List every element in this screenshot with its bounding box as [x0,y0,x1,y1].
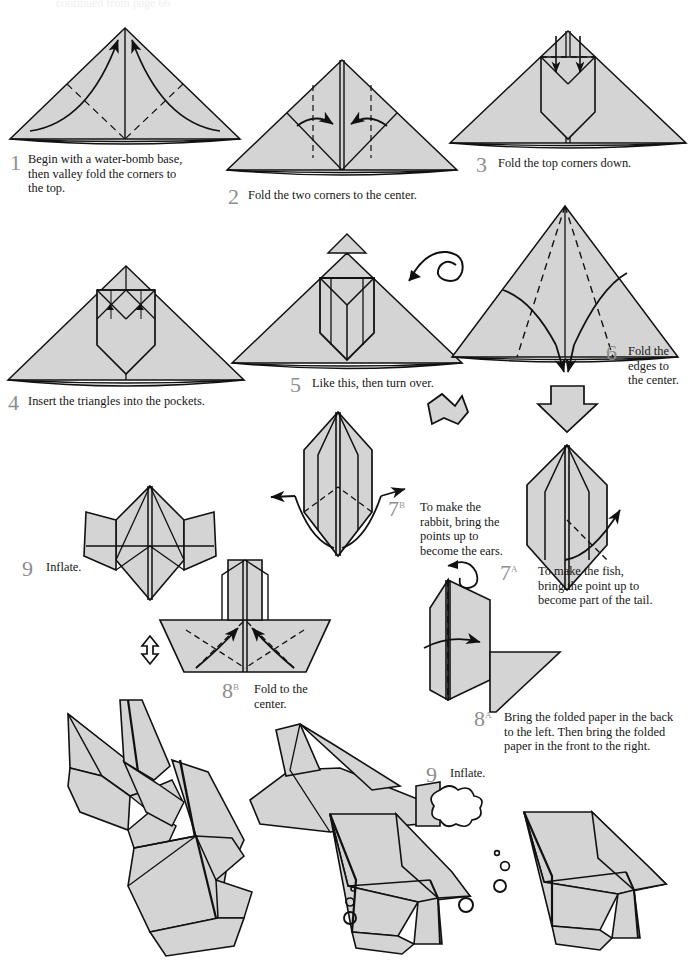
step-number-7b: 7B [388,496,405,522]
step-number-2: 2 [228,184,239,210]
step-2-figure [227,60,457,175]
step-number-1: 1 [10,150,21,176]
step-1-figure [10,28,240,144]
step-number-7a: 7A [500,560,518,586]
inflate-arrow-up [142,636,158,664]
step-caption-3: Fold the top corners down. [498,156,698,171]
block-arrow-down [538,386,597,432]
step-caption-1: Begin with a water-bomb base, then valle… [28,152,228,196]
step-number-8a: 8A [474,706,492,732]
step-caption-8b: Fold to the center. [254,682,346,711]
step-number-6: 6 [606,340,617,366]
origami-instruction-page: continued from page 66 [0,0,700,961]
step-caption-5: Like this, then turn over. [312,376,492,391]
step-number-3: 3 [476,152,487,178]
step-caption-7b: To make the rabbit, bring the points up … [420,500,528,558]
step-number-4: 4 [8,390,19,416]
step-caption-4: Insert the triangles into the pockets. [28,394,258,409]
step-caption-9a: Inflate. [450,766,530,781]
step-number-5: 5 [290,372,301,398]
step-5-figure [232,234,462,369]
step-3-figure [450,31,686,148]
step-caption-9b: Inflate. [46,560,126,575]
finished-fish-right-model [459,812,666,950]
finished-rabbit-model [68,700,252,956]
step-number-9b: 9 [22,556,33,582]
step-8b-figure [160,560,330,672]
step-6-figure [452,206,678,432]
step-4-figure [8,266,244,386]
finished-fish-left-model [330,814,470,954]
turn-over-arrow [409,252,463,281]
step-number-9a: 9 [426,762,437,788]
origami-diagram-canvas [0,0,700,961]
bubbles [459,851,509,912]
step-number-8b: 8B [222,678,239,704]
step-caption-7a: To make the fish, bring the point up to … [538,564,700,608]
step-caption-8a: Bring the folded paper in the back to th… [504,710,700,754]
inflate-puff-right [431,786,482,826]
step-caption-2: Fold the two corners to the center. [248,188,478,203]
step-caption-6: Fold the edges to the center. [628,344,700,388]
